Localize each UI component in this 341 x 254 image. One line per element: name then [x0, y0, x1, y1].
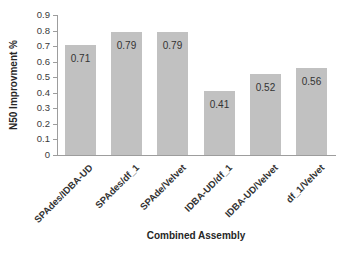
n50-improvement-bar-chart: N50 Improvment % 00.10.20.30.40.50.60.70…: [0, 0, 341, 254]
x-category-label: IDBA-UD/df_1: [182, 162, 234, 214]
y-tick-mark: [53, 108, 57, 109]
y-tick-mark: [53, 77, 57, 78]
x-category-label: SPAde/Velvet: [138, 162, 188, 212]
y-tick-mark: [53, 46, 57, 47]
y-tick-label: 0.9: [20, 9, 50, 21]
y-tick-label: 0.3: [20, 102, 50, 114]
x-category-label: SPAdes/df_1: [92, 162, 140, 210]
y-tick-label: 0.5: [20, 71, 50, 83]
y-tick-label: 0.4: [20, 87, 50, 99]
bar-value-label: 0.41: [201, 99, 238, 110]
bar-value-label: 0.71: [62, 53, 99, 64]
x-category-label: SPAdes/IDBA-UD: [32, 162, 95, 225]
y-tick-label: 0.2: [20, 118, 50, 130]
y-tick-mark: [53, 93, 57, 94]
x-axis-title: Combined Assembly: [57, 230, 335, 241]
bar-value-label: 0.56: [293, 76, 330, 87]
x-category-label: df_1/Velvet: [284, 162, 327, 205]
y-tick-mark: [53, 31, 57, 32]
bar-value-label: 0.52: [247, 82, 284, 93]
y-tick-mark: [53, 124, 57, 125]
y-tick-label: 0.6: [20, 56, 50, 68]
bar-value-label: 0.79: [108, 40, 145, 51]
y-tick-label: 0: [20, 149, 50, 161]
y-tick-mark: [53, 15, 57, 16]
y-tick-label: 0.8: [20, 25, 50, 37]
y-tick-mark: [53, 62, 57, 63]
y-tick-label: 0.7: [20, 40, 50, 52]
y-tick-label: 0.1: [20, 133, 50, 145]
bar-value-label: 0.79: [154, 40, 191, 51]
y-tick-mark: [53, 139, 57, 140]
y-tick-mark: [53, 155, 57, 156]
y-axis-title: N50 Improvment %: [8, 40, 19, 130]
